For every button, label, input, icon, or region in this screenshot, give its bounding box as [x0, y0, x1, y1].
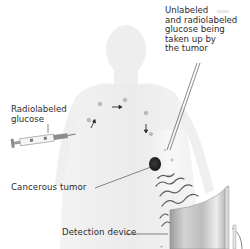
label-line: glucose: [11, 115, 67, 125]
label-radiolabeled-glucose: Radiolabeled glucose: [11, 105, 67, 124]
label-line: the tumor: [165, 44, 237, 54]
label-detection-device: Detection device: [62, 228, 136, 238]
label-unlabeled-radiolabeled-glucose: Unlabeled and radiolabeled glucose being…: [165, 6, 237, 54]
label-cancerous-tumor: Cancerous tumor: [11, 183, 86, 193]
svg-text:≡: ≡: [160, 245, 163, 249]
pet-scan-diagram: ≡ Unlabeled and radiolabeled glucose bei…: [0, 0, 250, 249]
legend-swatch-icon: [217, 10, 229, 13]
tumor: [149, 157, 161, 171]
